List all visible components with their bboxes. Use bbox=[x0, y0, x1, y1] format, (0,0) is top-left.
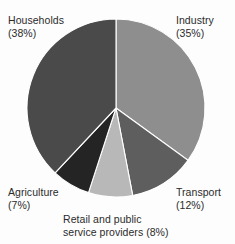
slice-label-retail: Retail and public service providers (8%) bbox=[63, 213, 169, 238]
slice-label-retail-value: service providers (8%) bbox=[63, 226, 169, 239]
slice-label-households-value: (38%) bbox=[8, 27, 64, 40]
slice-label-households: Households (38%) bbox=[8, 14, 64, 39]
slice-label-industry: Industry (35%) bbox=[176, 14, 214, 39]
slice-label-industry-name: Industry bbox=[176, 14, 214, 26]
slice-label-agriculture: Agriculture (7%) bbox=[8, 186, 59, 211]
slice-label-transport-value: (12%) bbox=[176, 199, 221, 212]
slice-label-agriculture-name: Agriculture bbox=[8, 186, 59, 198]
slice-label-agriculture-value: (7%) bbox=[8, 199, 59, 212]
slice-label-transport-name: Transport bbox=[176, 186, 221, 198]
slice-label-transport: Transport (12%) bbox=[176, 186, 221, 211]
slice-label-households-name: Households bbox=[8, 14, 64, 26]
pie-chart-figure: Households (38%) Industry (35%) Transpor… bbox=[0, 0, 235, 244]
slice-label-industry-value: (35%) bbox=[176, 27, 214, 40]
pie-slice-group bbox=[27, 19, 205, 197]
slice-label-retail-name: Retail and public bbox=[63, 213, 141, 225]
